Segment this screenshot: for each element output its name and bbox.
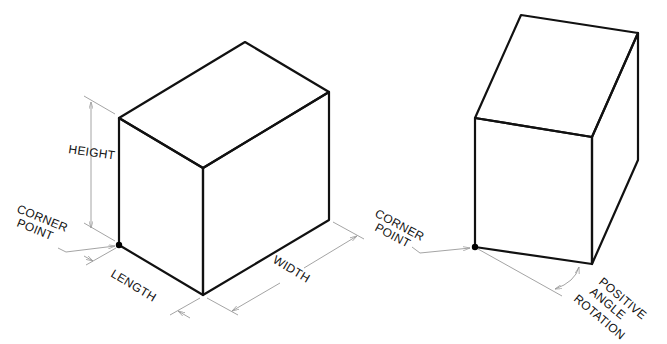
right-box-side-face [592,33,638,264]
width-dimension-line-right [304,236,357,268]
right-corner-point-dot [472,244,478,250]
left-box-front-face [119,118,203,295]
width-label: WIDTH [270,253,312,286]
diagram-canvas: HEIGHT CORNER POINT LENGTH WIDTH CORNER … [0,0,667,344]
left-box [116,42,329,295]
right-corner-leader [412,247,470,253]
length-label: LENGTH [108,267,158,305]
height-extension-top [84,96,115,114]
rotation-reference-line [478,249,562,296]
left-corner-leader-line [58,246,115,252]
length-extension-right [170,298,200,315]
left-box-top-face [119,42,329,168]
height-dimension [84,96,115,241]
width-dimension-line-left [232,283,280,311]
length-arrow-left [84,256,93,261]
length-arrow-right [178,311,190,318]
height-extension-bottom [84,223,115,241]
right-corner-leader-line [412,247,470,253]
left-corner-leader [58,246,115,252]
width-extension-right [333,222,364,239]
height-label: HEIGHT [68,142,117,162]
width-extension-left [207,298,238,315]
right-box-front-face [475,118,592,264]
rotation-indicator [478,249,579,296]
left-corner-point-dot [116,242,122,248]
length-extension-left [86,248,116,265]
rotation-arc [555,267,579,289]
right-box [472,15,638,264]
right-box-top-face [475,15,638,137]
